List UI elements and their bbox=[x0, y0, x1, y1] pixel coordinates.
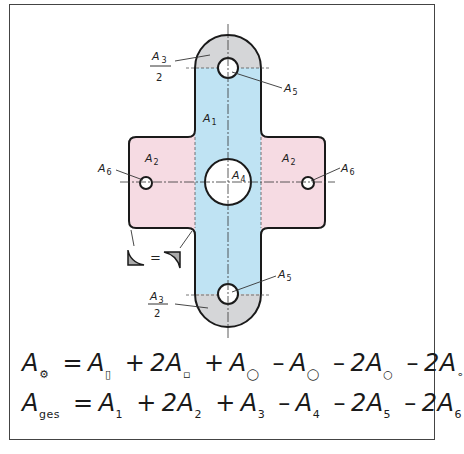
label-a6-left: A6 bbox=[97, 162, 112, 177]
fillet-symbol-left bbox=[128, 250, 144, 265]
label-a3-top-num: A3 bbox=[151, 50, 167, 65]
label-a3-bottom-num: A3 bbox=[149, 290, 164, 305]
label-a5-top: A5 bbox=[283, 82, 298, 97]
formula-symbolic: A⚙ =A▯ +2A▫ +A◯ –A◯ –2A○ –2A∘ bbox=[22, 349, 464, 377]
formula-lhs: A bbox=[22, 349, 39, 377]
formula-lhs: A bbox=[22, 389, 39, 417]
formula-lhs-sub: ⚙ bbox=[39, 368, 49, 381]
formula-lhs-sub: ges bbox=[39, 408, 60, 421]
fillet-symbol-right bbox=[164, 252, 180, 268]
hole-a6-left bbox=[140, 177, 152, 189]
leader-fillet-left bbox=[131, 230, 134, 246]
label-a5-bottom: A5 bbox=[277, 268, 292, 283]
label-a3-bottom-den: 2 bbox=[154, 308, 160, 319]
label-a3-top-den: 2 bbox=[156, 72, 162, 83]
hole-a6-right bbox=[302, 177, 314, 189]
leader-fillet-right bbox=[180, 231, 192, 248]
label-equals: = bbox=[150, 250, 161, 265]
formula-numeric: Ages =A1 +2A2 +A3 –A4 –2A5 –2A6 bbox=[22, 389, 462, 417]
label-a6-right: A6 bbox=[340, 162, 355, 177]
